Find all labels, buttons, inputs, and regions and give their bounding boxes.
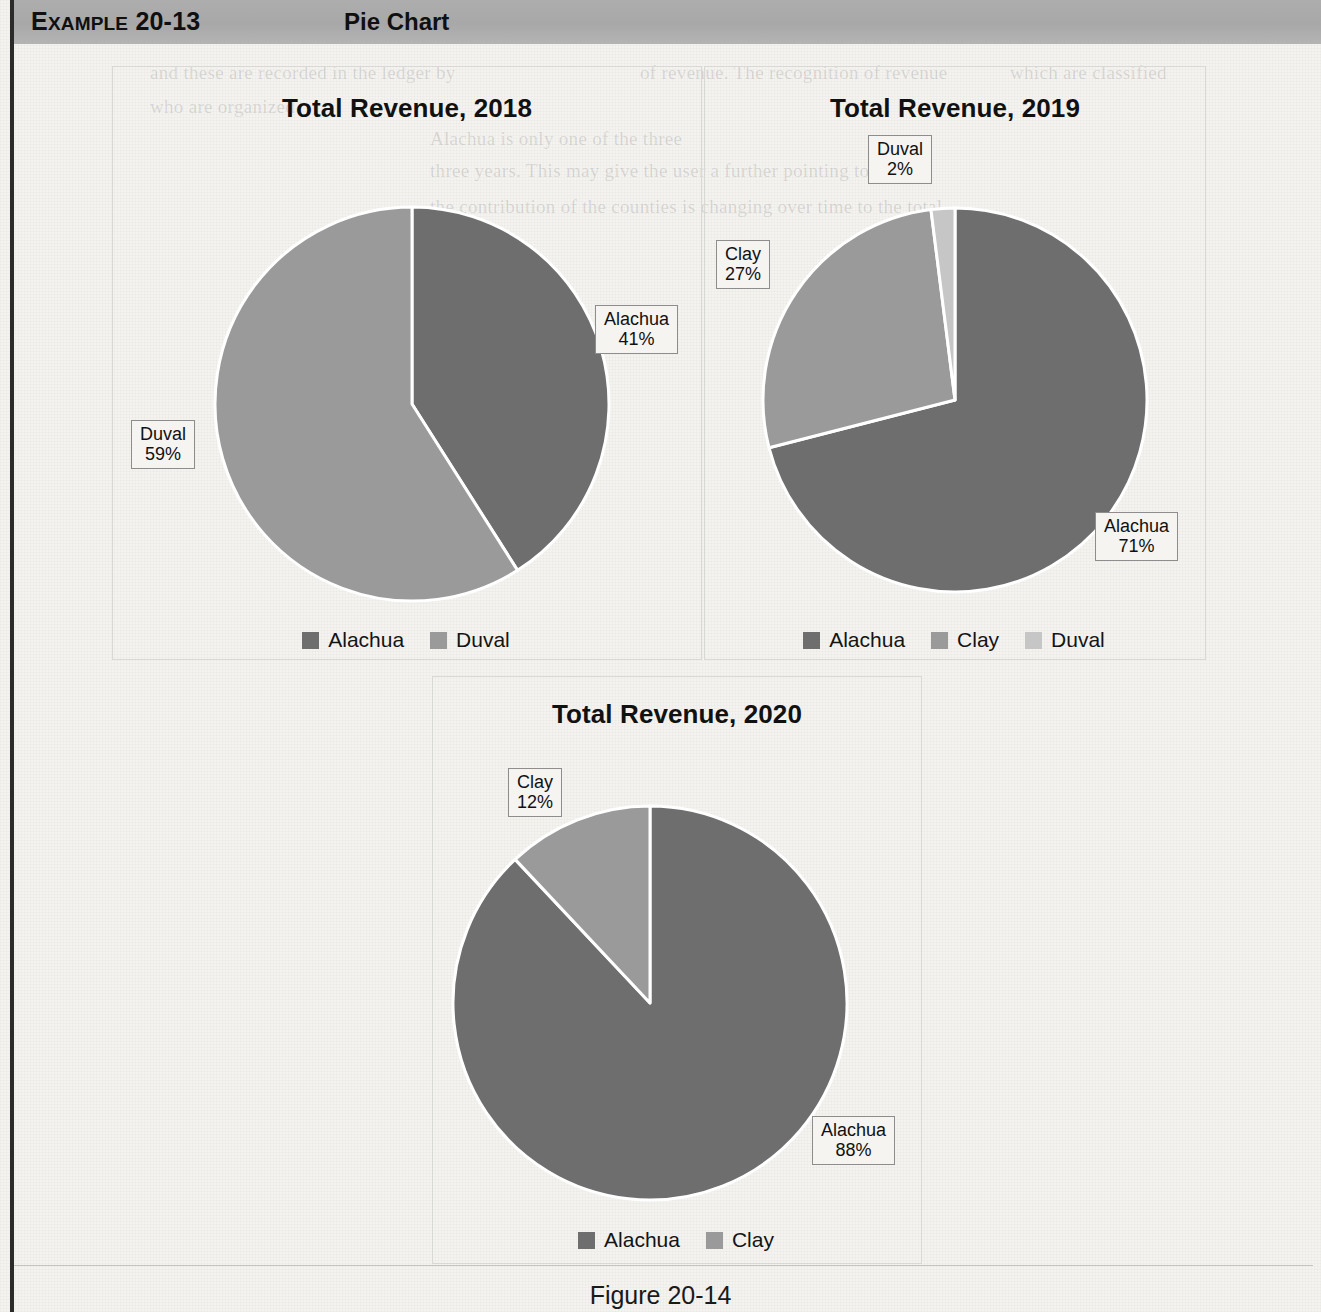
example-word-smallcaps: XAMPLE [48,13,128,34]
legend-item-clay[interactable]: Clay [706,1228,774,1252]
data-label-duval-rev2018[interactable]: Duval59% [131,420,195,469]
legend-label: Alachua [328,628,404,652]
data-label-alachua-rev2020[interactable]: Alachua88% [812,1116,895,1165]
legend-swatch-icon-alachua [578,1232,595,1249]
data-label-value: 59% [140,444,186,464]
pie-chart-rev2020[interactable] [449,802,851,1204]
caption-rule [14,1265,1313,1266]
data-label-name: Alachua [604,309,669,329]
legend-rev2019: AlachuaClayDuval [704,628,1204,652]
example-label: EXAMPLE 20-13 [31,7,200,36]
data-label-value: 12% [517,792,553,812]
data-label-value: 2% [877,159,923,179]
data-label-name: Clay [725,244,761,264]
pie-chart-rev2019[interactable] [759,204,1151,596]
data-label-alachua-rev2018[interactable]: Alachua41% [595,305,678,354]
legend-rev2020: AlachuaClay [432,1228,920,1252]
data-label-value: 71% [1104,536,1169,556]
data-label-name: Clay [517,772,553,792]
data-label-alachua-rev2019[interactable]: Alachua71% [1095,512,1178,561]
figure-caption: Figure 20-14 [0,1281,1321,1310]
chart-title-rev2018: Total Revenue, 2018 [113,93,701,124]
data-label-clay-rev2019[interactable]: Clay27% [716,240,770,289]
legend-item-duval[interactable]: Duval [430,628,510,652]
chart-title-rev2019: Total Revenue, 2019 [705,93,1205,124]
legend-label: Clay [957,628,999,652]
legend-swatch-icon-duval [1025,632,1042,649]
legend-label: Clay [732,1228,774,1252]
legend-swatch-icon-alachua [302,632,319,649]
data-label-name: Alachua [1104,516,1169,536]
legend-item-duval[interactable]: Duval [1025,628,1105,652]
example-word-cap: E [31,7,48,35]
data-label-clay-rev2020[interactable]: Clay12% [508,768,562,817]
data-label-duval-rev2019[interactable]: Duval2% [868,135,932,184]
legend-item-alachua[interactable]: Alachua [578,1228,680,1252]
legend-swatch-icon-clay [931,632,948,649]
legend-label: Duval [456,628,510,652]
legend-swatch-icon-clay [706,1232,723,1249]
data-label-value: 88% [821,1140,886,1160]
chart-title-rev2020: Total Revenue, 2020 [433,699,921,730]
page-spine-rule [10,0,14,1312]
example-title: Pie Chart [344,8,449,36]
legend-rev2018: AlachuaDuval [112,628,700,652]
legend-swatch-icon-duval [430,632,447,649]
legend-label: Alachua [604,1228,680,1252]
legend-label: Alachua [829,628,905,652]
legend-swatch-icon-alachua [803,632,820,649]
example-number: 20-13 [135,7,200,35]
legend-item-clay[interactable]: Clay [931,628,999,652]
legend-item-alachua[interactable]: Alachua [302,628,404,652]
example-banner: EXAMPLE 20-13 Pie Chart [14,0,1321,44]
data-label-name: Alachua [821,1120,886,1140]
legend-label: Duval [1051,628,1105,652]
data-label-name: Duval [140,424,186,444]
data-label-name: Duval [877,139,923,159]
data-label-value: 41% [604,329,669,349]
data-label-value: 27% [725,264,761,284]
pie-chart-rev2018[interactable] [211,203,613,605]
legend-item-alachua[interactable]: Alachua [803,628,905,652]
